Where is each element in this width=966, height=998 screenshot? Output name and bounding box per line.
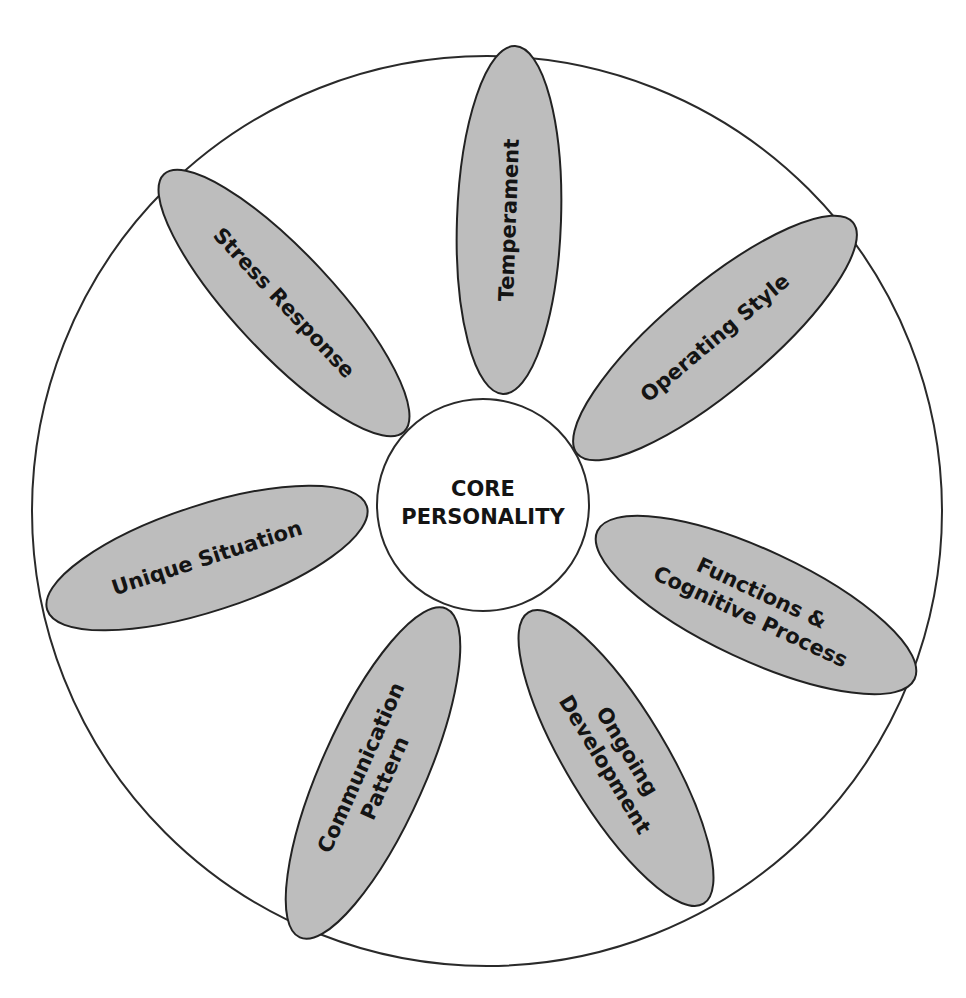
core-personality-diagram: Temperament Operating Style Functions & …: [0, 0, 966, 998]
core-label-line2: PERSONALITY: [401, 505, 565, 529]
core-label-line1: CORE: [451, 477, 515, 501]
